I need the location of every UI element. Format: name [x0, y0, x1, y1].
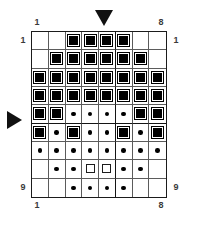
row-label-left-bottom: 9	[17, 182, 29, 192]
board-grid	[31, 31, 167, 198]
board-cell-r1-c3[interactable]	[66, 32, 83, 50]
board-cell-r7-c1[interactable]	[32, 142, 49, 160]
board-cell-r3-c3[interactable]	[66, 69, 83, 87]
board-cell-r6-c8[interactable]	[149, 124, 166, 142]
board-cell-r1-c5[interactable]	[99, 32, 116, 50]
filled-square-icon	[51, 108, 62, 119]
filled-square-icon	[118, 53, 129, 64]
filled-square-icon	[118, 72, 129, 83]
board-cell-r2-c4[interactable]	[82, 50, 99, 68]
board-cell-r4-c2[interactable]	[49, 87, 66, 105]
board-cell-r8-c5[interactable]	[99, 160, 116, 178]
board-cell-r2-c2[interactable]	[49, 50, 66, 68]
open-square-icon	[86, 164, 95, 173]
filled-square-icon	[68, 90, 79, 101]
board-cell-r3-c5[interactable]	[99, 69, 116, 87]
board-cell-r3-c8[interactable]	[149, 69, 166, 87]
board-cell-r5-c5[interactable]	[99, 105, 116, 123]
board-cell-r2-c3[interactable]	[66, 50, 83, 68]
filled-square-icon	[152, 72, 163, 83]
board-cell-r6-c6[interactable]	[116, 124, 133, 142]
filled-square-icon	[101, 72, 112, 83]
board-cell-r2-c6[interactable]	[116, 50, 133, 68]
board-cell-r9-c6[interactable]	[116, 179, 133, 197]
board-cell-r4-c3[interactable]	[66, 87, 83, 105]
board-cell-r8-c3[interactable]	[66, 160, 83, 178]
column-label-bottom-left: 1	[31, 200, 43, 210]
board-cell-r2-c1[interactable]	[32, 50, 49, 68]
filled-square-icon	[85, 35, 96, 46]
filled-square-icon	[135, 90, 146, 101]
board-cell-r9-c1[interactable]	[32, 179, 49, 197]
board-cell-r7-c2[interactable]	[49, 142, 66, 160]
board-cell-r5-c7[interactable]	[133, 105, 150, 123]
dot-icon	[71, 167, 76, 172]
board-cell-r6-c4[interactable]	[82, 124, 99, 142]
board-cell-r3-c1[interactable]	[32, 69, 49, 87]
board-cell-r1-c4[interactable]	[82, 32, 99, 50]
board-cell-r4-c7[interactable]	[133, 87, 150, 105]
board-cell-r3-c2[interactable]	[49, 69, 66, 87]
board-cell-r8-c7[interactable]	[133, 160, 150, 178]
board-cell-r4-c1[interactable]	[32, 87, 49, 105]
dot-icon	[138, 167, 143, 172]
dot-icon	[121, 112, 126, 117]
board-cell-r8-c4[interactable]	[82, 160, 99, 178]
board-cell-r4-c8[interactable]	[149, 87, 166, 105]
filled-square-icon	[34, 90, 45, 101]
dot-icon	[71, 186, 76, 191]
board-cell-r5-c2[interactable]	[49, 105, 66, 123]
board-cell-r8-c6[interactable]	[116, 160, 133, 178]
board-cell-r1-c8[interactable]	[149, 32, 166, 50]
dot-icon	[54, 148, 59, 153]
filled-square-icon	[118, 90, 129, 101]
board-cell-r2-c5[interactable]	[99, 50, 116, 68]
board-cell-r4-c4[interactable]	[82, 87, 99, 105]
board-cell-r5-c1[interactable]	[32, 105, 49, 123]
filled-square-icon	[152, 108, 163, 119]
dot-icon	[121, 148, 126, 153]
board-cell-r1-c7[interactable]	[133, 32, 150, 50]
board-cell-r6-c1[interactable]	[32, 124, 49, 142]
board-cell-r7-c3[interactable]	[66, 142, 83, 160]
board-cell-r9-c4[interactable]	[82, 179, 99, 197]
filled-square-icon	[68, 127, 79, 138]
board-cell-r5-c6[interactable]	[116, 105, 133, 123]
board-cell-r9-c3[interactable]	[66, 179, 83, 197]
board-cell-r9-c2[interactable]	[49, 179, 66, 197]
board-cell-r9-c7[interactable]	[133, 179, 150, 197]
board-cell-r7-c8[interactable]	[149, 142, 166, 160]
filled-square-icon	[51, 90, 62, 101]
filled-square-icon	[135, 108, 146, 119]
board-cell-r8-c8[interactable]	[149, 160, 166, 178]
board-cell-r4-c5[interactable]	[99, 87, 116, 105]
board-cell-r3-c7[interactable]	[133, 69, 150, 87]
row-label-right-top: 1	[170, 35, 182, 45]
filled-square-icon	[135, 72, 146, 83]
board-cell-r2-c7[interactable]	[133, 50, 150, 68]
board-cell-r3-c6[interactable]	[116, 69, 133, 87]
board-cell-r6-c2[interactable]	[49, 124, 66, 142]
board-cell-r5-c4[interactable]	[82, 105, 99, 123]
board-cell-r1-c1[interactable]	[32, 32, 49, 50]
board-cell-r7-c5[interactable]	[99, 142, 116, 160]
board-cell-r1-c6[interactable]	[116, 32, 133, 50]
board-cell-r6-c7[interactable]	[133, 124, 150, 142]
board-cell-r9-c5[interactable]	[99, 179, 116, 197]
board-cell-r7-c4[interactable]	[82, 142, 99, 160]
board-cell-r8-c2[interactable]	[49, 160, 66, 178]
filled-square-icon	[34, 127, 45, 138]
board-cell-r2-c8[interactable]	[149, 50, 166, 68]
open-square-icon	[102, 164, 111, 173]
board-cell-r5-c3[interactable]	[66, 105, 83, 123]
board-cell-r9-c8[interactable]	[149, 179, 166, 197]
board-cell-r1-c2[interactable]	[49, 32, 66, 50]
board-cell-r4-c6[interactable]	[116, 87, 133, 105]
board-cell-r6-c5[interactable]	[99, 124, 116, 142]
board-cell-r8-c1[interactable]	[32, 160, 49, 178]
board-cell-r7-c7[interactable]	[133, 142, 150, 160]
board-cell-r3-c4[interactable]	[82, 69, 99, 87]
board-cell-r6-c3[interactable]	[66, 124, 83, 142]
board-cell-r5-c8[interactable]	[149, 105, 166, 123]
board-cell-r7-c6[interactable]	[116, 142, 133, 160]
